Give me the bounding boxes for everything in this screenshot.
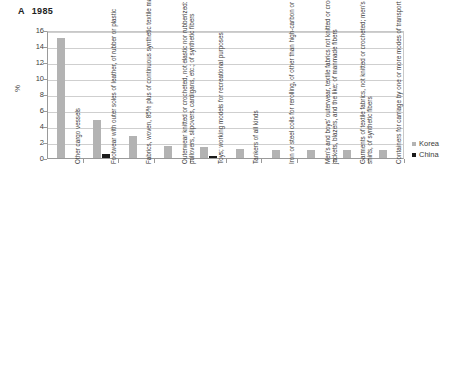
x-axis-label: Containers for carriage by one or more m…: [395, 0, 402, 164]
plot-area: [47, 31, 404, 159]
x-axis-label: Garments of textile fabrics, not knitted…: [359, 0, 374, 164]
x-axis-labels: Other cargo vesselsFootwear with outer s…: [47, 163, 404, 363]
x-axis-label: Toys; working models for recreational pu…: [217, 0, 224, 164]
y-tick-label: 8: [4, 91, 44, 99]
y-tick-mark: [43, 159, 47, 160]
y-axis-ticks: 0246810121416: [0, 31, 44, 159]
bar-korea: [272, 150, 280, 158]
legend-swatch-icon: [412, 153, 416, 157]
x-axis-label: Iron or steel coils for rerolling, of ot…: [288, 0, 295, 164]
legend-swatch-icon: [412, 142, 416, 146]
y-tick-label: 0: [4, 155, 44, 163]
chart-title-year: 1985: [32, 6, 53, 16]
chart-title: A1985: [18, 6, 53, 16]
bar-korea: [379, 150, 387, 158]
x-axis-label: Fabrics, woven, 85% plus of continuous s…: [145, 0, 152, 164]
chart-legend: KoreaChina: [412, 138, 439, 160]
bar-korea: [236, 149, 244, 158]
x-tick-mark: [404, 159, 405, 163]
legend-label: Korea: [419, 139, 439, 148]
bar-korea: [164, 146, 172, 158]
y-tick-label: 10: [4, 75, 44, 83]
x-axis-label: Men's and boys' outerwear, textile fabri…: [324, 0, 339, 164]
bar-series-group: [48, 32, 403, 158]
bar-korea: [343, 150, 351, 158]
bar-korea: [200, 147, 208, 158]
y-tick-label: 12: [4, 59, 44, 67]
y-tick-label: 16: [4, 27, 44, 35]
y-tick-label: 2: [4, 139, 44, 147]
chart-root: A1985 % 0246810121416 Other cargo vessel…: [0, 0, 455, 367]
x-axis-label: Outerwear knitted or crocheted, not elas…: [181, 0, 196, 164]
bar-china: [209, 156, 217, 158]
legend-label: China: [419, 150, 439, 159]
legend-item-korea[interactable]: Korea: [412, 138, 439, 149]
bar-korea: [307, 150, 315, 158]
bar-china: [102, 154, 110, 158]
bar-korea: [93, 120, 101, 158]
bar-korea: [57, 38, 65, 158]
y-tick-label: 6: [4, 107, 44, 115]
x-axis-label: Other cargo vessels: [74, 0, 81, 164]
legend-item-china[interactable]: China: [412, 149, 439, 160]
y-tick-label: 14: [4, 43, 44, 51]
chart-panel-letter: A: [18, 6, 25, 16]
x-axis-label: Tankers of all kinds: [252, 0, 259, 164]
y-tick-label: 4: [4, 123, 44, 131]
bar-korea: [129, 136, 137, 158]
x-axis-label: Footwear with outer soles of leather, of…: [110, 0, 117, 164]
